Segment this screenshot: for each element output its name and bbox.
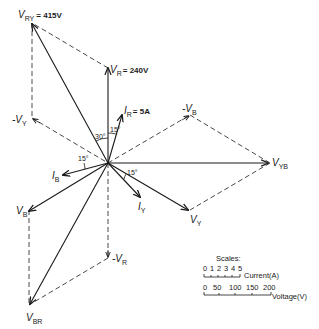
svg-text:3: 3 xyxy=(224,264,228,273)
svg-text:1: 1 xyxy=(210,264,214,273)
svg-text:200: 200 xyxy=(263,283,276,292)
svg-text:IB: IB xyxy=(52,170,60,183)
svg-text:VRY= 415V: VRY= 415V xyxy=(18,9,63,22)
svg-text:VYB: VYB xyxy=(272,157,288,170)
svg-text:15°: 15° xyxy=(78,155,89,162)
i-r-arrow xyxy=(108,115,122,163)
svg-text:2: 2 xyxy=(217,264,221,273)
svg-text:VR= 240V: VR= 240V xyxy=(110,64,149,77)
svg-text:IR= 5A: IR= 5A xyxy=(124,105,150,118)
i-b-arrow xyxy=(63,163,108,175)
svg-text:Scales:: Scales: xyxy=(216,254,241,263)
svg-text:IY: IY xyxy=(138,201,146,214)
svg-text:VBR: VBR xyxy=(26,312,42,325)
v-b-arrow xyxy=(29,163,108,211)
svg-text:100: 100 xyxy=(229,283,242,292)
svg-text:30°: 30° xyxy=(95,133,106,140)
svg-text:5: 5 xyxy=(238,264,242,273)
v-br-arrow xyxy=(30,163,108,304)
svg-text:0: 0 xyxy=(203,264,207,273)
svg-text:150: 150 xyxy=(246,283,259,292)
svg-text:-VB: -VB xyxy=(182,103,197,116)
svg-text:4: 4 xyxy=(231,264,235,273)
svg-text:15°: 15° xyxy=(127,169,138,176)
scales-legend: Scales: 0 1 2 3 4 5 Current(A) 0 50 100 … xyxy=(203,254,308,301)
svg-text:Current(A): Current(A) xyxy=(244,271,280,280)
svg-text:50: 50 xyxy=(213,283,221,292)
v-y-arrow xyxy=(108,163,188,210)
phasor-diagram: VRY= 415V VR= 240V IR= 5A -VB -VY VYB IB… xyxy=(0,0,319,329)
svg-text:0: 0 xyxy=(203,283,207,292)
svg-text:VY: VY xyxy=(190,214,202,227)
svg-text:15°: 15° xyxy=(110,126,121,133)
svg-text:Voltage(V): Voltage(V) xyxy=(272,292,308,301)
svg-text:VB: VB xyxy=(16,205,28,218)
svg-text:-VR: -VR xyxy=(112,253,127,266)
svg-text:-VY: -VY xyxy=(12,114,27,127)
v-ry-arrow xyxy=(32,24,108,163)
